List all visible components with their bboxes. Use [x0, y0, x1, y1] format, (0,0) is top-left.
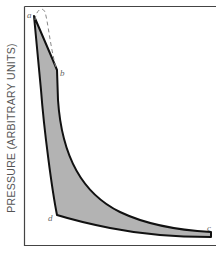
cycle-area	[34, 16, 211, 237]
point-label-a: a	[27, 10, 32, 20]
pv-diagram: a b c d	[0, 0, 216, 256]
point-label-c: c	[207, 223, 211, 233]
point-label-b: b	[60, 68, 65, 78]
point-label-d: d	[48, 213, 53, 223]
